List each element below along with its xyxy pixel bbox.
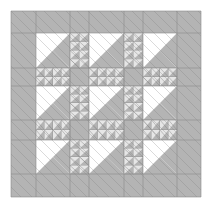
quilt-image (0, 0, 211, 209)
